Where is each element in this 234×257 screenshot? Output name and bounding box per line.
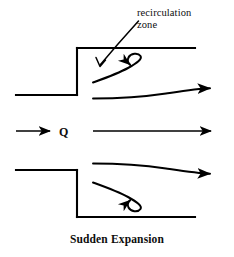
lower-shear-streamline [93, 164, 210, 174]
leader-line [101, 21, 139, 65]
flow-arrows [16, 88, 211, 174]
sudden-expansion-figure: recirculation zone Q Sudden Expansion [0, 0, 234, 257]
diagram-canvas: recirculation zone Q Sudden Expansion [0, 0, 234, 257]
recirculation-zone-label-line2: zone [137, 19, 157, 30]
flow-rate-label: Q [59, 125, 68, 139]
duct-walls [16, 48, 195, 217]
recirculation-zone-leader [96, 21, 139, 67]
recirculation-zone-label-line1: recirculation [137, 7, 192, 18]
lower-recirculation-vortex [93, 183, 141, 212]
leader-arrowhead-icon [96, 58, 106, 67]
figure-caption: Sudden Expansion [70, 233, 165, 246]
upper-recirculation-vortex [93, 54, 141, 83]
upper-shear-streamline [93, 88, 210, 98]
recirculation-vortices [93, 54, 141, 211]
